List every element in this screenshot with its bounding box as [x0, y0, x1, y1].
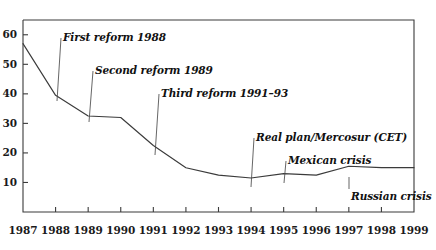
y-tick-label: 40 [2, 88, 17, 99]
annotation-label-third-reform: Third reform 1991–93 [161, 88, 288, 99]
annotation-label-mexican-crisis: Mexican crisis [288, 155, 371, 166]
annotation-leader-third-reform [155, 94, 159, 155]
axis-frame [23, 20, 414, 212]
annotation-leader-first-reform [57, 38, 61, 101]
y-tick-label: 50 [2, 59, 17, 70]
x-tick-label: 1999 [392, 225, 436, 236]
annotation-leader-lines [57, 38, 349, 189]
annotation-leader-second-reform [89, 71, 93, 122]
annotation-label-real-plan-mercosur: Real plan/Mercosur (CET) [256, 132, 407, 143]
x-axis-ticks [56, 207, 382, 212]
y-tick-label: 30 [2, 118, 17, 129]
y-tick-label: 10 [2, 177, 17, 188]
annotation-label-second-reform: Second reform 1989 [95, 65, 213, 76]
annotation-leader-mexican-crisis [284, 161, 286, 183]
y-tick-label: 60 [2, 29, 17, 40]
annotation-label-russian-crisis: Russian crisis [351, 191, 432, 202]
annotation-label-first-reform: First reform 1988 [63, 32, 166, 43]
y-tick-label: 20 [2, 147, 17, 158]
y-axis-ticks [23, 35, 28, 183]
annotation-leader-real-plan-mercosur [251, 138, 254, 187]
